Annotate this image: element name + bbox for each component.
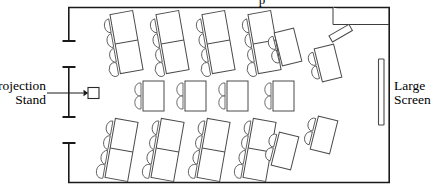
chair <box>238 150 246 165</box>
chair <box>246 48 254 63</box>
chair <box>303 130 312 144</box>
chair <box>149 19 157 34</box>
chair <box>195 19 203 34</box>
large-screen <box>379 59 385 125</box>
chair <box>95 163 105 178</box>
chair <box>194 135 202 150</box>
chair <box>197 120 205 135</box>
table-group-right-4 <box>302 114 338 154</box>
chair <box>200 62 211 77</box>
table-middle-2 <box>185 81 206 111</box>
chair <box>240 135 248 150</box>
chair <box>233 163 243 178</box>
table-group-bottom-2 <box>141 117 184 183</box>
chair <box>108 48 116 63</box>
table-group-middle-3 <box>219 81 248 111</box>
chair <box>310 66 319 80</box>
seating-row-top <box>100 11 282 78</box>
table-group-bottom-1 <box>95 117 138 183</box>
chair <box>154 48 162 63</box>
projection-stand <box>88 88 99 99</box>
chair <box>135 83 141 96</box>
chair <box>219 96 225 109</box>
table-middle-3 <box>227 81 248 111</box>
floor-plan-svg: p <box>0 0 435 193</box>
chair <box>219 83 225 96</box>
table-group-right-bar <box>329 24 352 42</box>
table-group-top-3 <box>192 11 236 78</box>
projection-stand-label-line2: Stand <box>15 92 46 107</box>
chair <box>198 34 206 49</box>
chair <box>177 96 183 109</box>
chair <box>192 150 200 165</box>
table-group-middle-1 <box>135 81 164 111</box>
wall-left-segment-lower <box>63 143 76 183</box>
chair <box>187 163 197 178</box>
wall-left-segment-middle <box>63 67 76 117</box>
chair <box>307 117 316 131</box>
chair <box>154 62 165 77</box>
floor-plan-diagram: p <box>0 0 435 193</box>
chair <box>102 135 110 150</box>
chair <box>241 19 249 34</box>
chair <box>135 96 141 109</box>
alcove-top-right <box>333 8 389 25</box>
table-middle-1 <box>143 81 164 111</box>
chair <box>100 150 108 165</box>
top-caption-fragment: p <box>259 0 266 7</box>
seating-cluster-right-upper <box>266 24 352 84</box>
table-group-right-2 <box>306 44 342 84</box>
chair <box>200 48 208 63</box>
chair <box>152 34 160 49</box>
chair <box>141 163 151 178</box>
chair <box>103 19 111 34</box>
chair <box>244 34 252 49</box>
projection-stand-leader <box>47 90 88 96</box>
chair <box>177 83 183 96</box>
table-group-middle-4 <box>265 81 294 111</box>
chair <box>265 83 271 96</box>
chair <box>108 62 119 77</box>
chair <box>265 96 271 109</box>
chair <box>106 34 114 49</box>
chair <box>246 62 257 77</box>
chair <box>105 120 113 135</box>
chair <box>151 120 159 135</box>
label-large-screen: Large Screen <box>394 78 431 107</box>
bar-right-upper <box>329 24 352 42</box>
table-group-bottom-3 <box>187 117 230 183</box>
chair <box>307 52 316 66</box>
seating-row-middle <box>135 81 294 111</box>
table-group-top-1 <box>100 11 144 78</box>
label-projection-stand: Projection Stand <box>0 78 46 107</box>
large-screen-label-line1: Large <box>394 78 425 93</box>
seating-row-bottom <box>95 117 276 183</box>
table-group-middle-2 <box>177 81 206 111</box>
table-middle-4 <box>273 81 294 111</box>
wall-left-segment-upper <box>63 7 76 41</box>
chair <box>146 150 154 165</box>
large-screen-label-line2: Screen <box>394 92 431 107</box>
chair <box>148 135 156 150</box>
table-group-top-2 <box>146 11 190 78</box>
projection-stand-label-line1: Projection <box>0 78 46 93</box>
chair <box>243 120 251 135</box>
